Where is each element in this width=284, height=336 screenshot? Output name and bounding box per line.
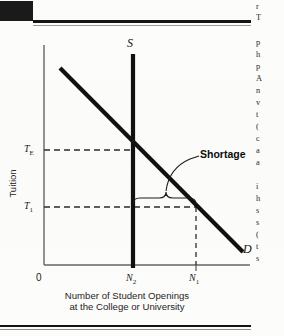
body-text-line: p bbox=[256, 38, 282, 47]
x-axis-caption-line2: at the College or University bbox=[0, 301, 254, 313]
body-text-line: p bbox=[256, 62, 282, 71]
y-tick-label-equilibrium: TE bbox=[24, 143, 34, 157]
body-text-line: h bbox=[256, 194, 282, 203]
header-rule-thick bbox=[33, 20, 251, 23]
y-axis-label: Tuition bbox=[7, 156, 18, 212]
body-text-line: a bbox=[256, 158, 282, 167]
header-rule-thin bbox=[33, 25, 251, 26]
scanned-page: r T p h p A n v t ( c a a i h s s ( t s bbox=[0, 0, 284, 336]
x-tick-label-supply: N2 bbox=[126, 272, 136, 286]
demand-curve bbox=[60, 68, 243, 252]
body-text-line: v bbox=[256, 98, 282, 107]
supply-demand-figure: Tuition TE T1 0 N2 N1 S D Shortage Numbe… bbox=[0, 28, 254, 316]
y-tick-label-low: T1 bbox=[24, 200, 33, 214]
x-tick-label-demand: N1 bbox=[189, 272, 199, 286]
body-text-line: ( bbox=[256, 230, 282, 239]
supply-curve-label: S bbox=[127, 36, 133, 51]
body-text-line: s bbox=[256, 206, 282, 215]
body-text-line: t bbox=[256, 242, 282, 251]
body-text-line: ( bbox=[256, 122, 282, 131]
body-text-line: r bbox=[256, 2, 282, 11]
body-text-line: c bbox=[256, 134, 282, 143]
body-text-column: r T p h p A n v t ( c a a i h s s ( t s bbox=[254, 0, 284, 336]
body-text-line: A bbox=[256, 74, 282, 83]
demand-curve-label: D bbox=[243, 242, 252, 257]
shortage-leader-tail bbox=[190, 156, 199, 159]
body-text-line: i bbox=[256, 182, 282, 191]
body-text-line: t bbox=[256, 110, 282, 119]
footer-rule-thick bbox=[0, 325, 251, 327]
body-text-line: a bbox=[256, 146, 282, 155]
body-text-line: s bbox=[256, 254, 282, 263]
chapter-tab bbox=[0, 1, 33, 21]
origin-label: 0 bbox=[36, 272, 42, 283]
body-text-line: T bbox=[256, 13, 282, 22]
x-axis-caption-line1: Number of Student Openings bbox=[0, 290, 254, 302]
footer-rule-thin bbox=[0, 329, 251, 330]
body-text-line: h bbox=[256, 50, 282, 59]
body-text-line: n bbox=[256, 86, 282, 95]
shortage-annotation-label: Shortage bbox=[200, 148, 246, 160]
body-text-line: s bbox=[256, 218, 282, 227]
